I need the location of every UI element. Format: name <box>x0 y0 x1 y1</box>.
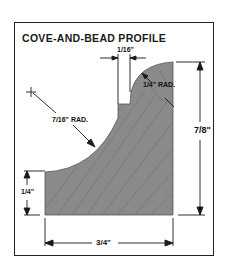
profile-drawing <box>0 0 228 271</box>
total-width-label: 3/4" <box>96 239 111 247</box>
base-height-label: 1/4" <box>21 188 34 196</box>
cove-radius-label: 7/16" RAD. <box>52 116 88 124</box>
height-dimension <box>176 62 205 215</box>
total-height-label: 7/8" <box>194 126 211 134</box>
bead-radius-label: 1/4" RAD. <box>143 81 175 89</box>
fillet-width-label: 1/16" <box>117 46 134 54</box>
